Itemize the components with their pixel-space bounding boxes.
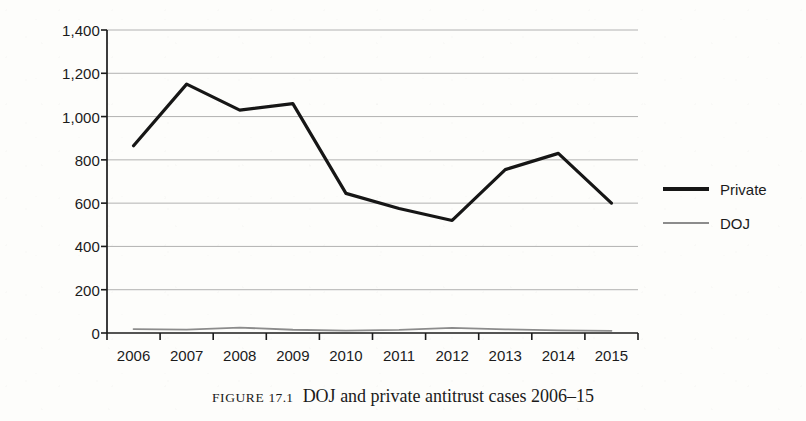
y-tick-label: 800 xyxy=(75,151,100,168)
y-tick-label: 1,000 xyxy=(62,108,100,125)
y-tick-label: 0 xyxy=(92,325,100,342)
legend-item-private: Private xyxy=(663,172,803,206)
x-tick-label: 2009 xyxy=(276,347,309,364)
caption-label: FIGURE xyxy=(212,390,264,405)
x-tick-label: 2012 xyxy=(435,347,468,364)
chart-axes xyxy=(107,30,638,333)
legend-line-icon-private xyxy=(663,187,709,191)
x-tick-label: 2011 xyxy=(383,347,415,364)
y-tick-label: 200 xyxy=(75,281,100,298)
y-tick-label: 400 xyxy=(75,238,100,255)
x-tick-label: 2015 xyxy=(595,347,628,364)
legend-label-doj: DOJ xyxy=(720,215,750,232)
y-tick-label: 1,400 xyxy=(62,22,100,39)
x-tick-label: 2013 xyxy=(489,347,522,364)
data-series xyxy=(134,84,612,331)
x-axis-labels: 2006200720082009201020112012201320142015 xyxy=(0,347,806,371)
legend-label-private: Private xyxy=(720,181,767,198)
x-tick-label: 2010 xyxy=(329,347,362,364)
y-tick-label: 1,200 xyxy=(62,65,100,82)
legend-line-icon-doj xyxy=(663,222,709,224)
x-axis-tickmarks xyxy=(107,333,638,340)
caption-text: DOJ and private antitrust cases 2006–15 xyxy=(303,386,594,406)
legend-item-doj: DOJ xyxy=(663,206,803,240)
x-tick-label: 2014 xyxy=(542,347,575,364)
gridlines xyxy=(107,30,638,290)
y-axis-tickmarks xyxy=(101,30,107,333)
x-tick-label: 2008 xyxy=(223,347,256,364)
caption-number: 17.1 xyxy=(269,390,294,405)
y-tick-label: 600 xyxy=(75,195,100,212)
x-tick-label: 2007 xyxy=(170,347,203,364)
figure-container: 02004006008001,0001,2001,400 20062007200… xyxy=(0,0,806,421)
y-axis-labels: 02004006008001,0001,2001,400 xyxy=(22,0,100,380)
x-tick-label: 2006 xyxy=(117,347,150,364)
chart-legend: Private DOJ xyxy=(663,172,803,240)
figure-caption: FIGURE 17.1 DOJ and private antitrust ca… xyxy=(0,386,806,407)
